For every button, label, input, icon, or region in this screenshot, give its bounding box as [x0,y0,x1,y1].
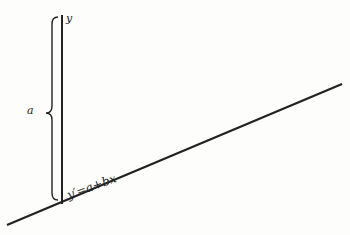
intercept-brace [46,17,58,200]
diagram-canvas: y a y′=a+bx [0,0,350,235]
y-axis-label: y [66,12,72,25]
intercept-label: a [27,104,34,117]
diagram-svg [0,0,350,235]
regression-line [7,84,342,225]
